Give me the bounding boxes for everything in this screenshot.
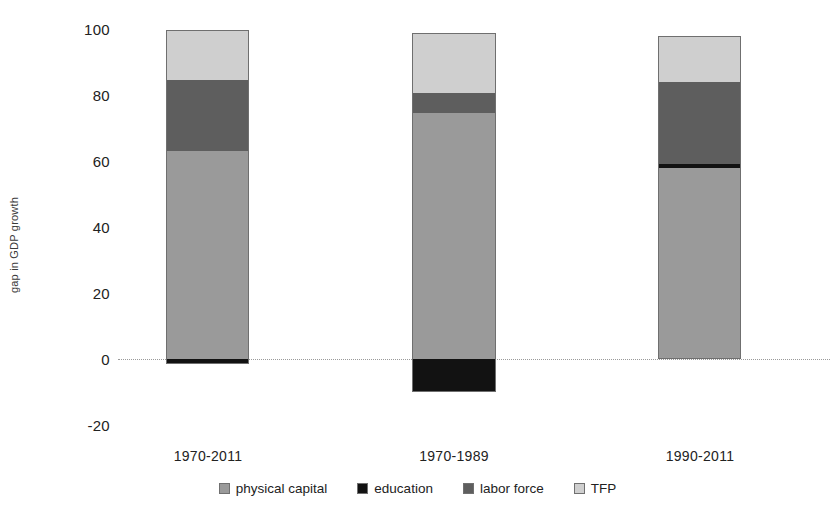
y-tick-label-20: 20 — [48, 285, 110, 302]
legend-item-physical-capital[interactable]: physical capital — [219, 481, 328, 496]
segment-tfp[interactable] — [166, 30, 249, 80]
chart-container: gap in GDP growth 100 80 60 40 20 0 -20 — [0, 0, 835, 518]
bar-group-1970-2011[interactable] — [166, 10, 249, 430]
legend-swatch-education — [357, 483, 368, 494]
bar-group-1970-1989[interactable] — [412, 10, 496, 430]
segment-physical-capital[interactable] — [412, 113, 496, 359]
segment-tfp[interactable] — [658, 36, 741, 82]
legend-label-physical-capital: physical capital — [236, 481, 328, 496]
bar-group-1990-2011[interactable] — [658, 10, 741, 430]
y-tick-label-neg20: -20 — [48, 417, 110, 434]
legend-label-tfp: TFP — [591, 481, 617, 496]
y-tick-label-40: 40 — [48, 219, 110, 236]
y-tick-label-80: 80 — [48, 87, 110, 104]
legend-swatch-physical-capital — [219, 483, 230, 494]
y-axis-tick-labels: 100 80 60 40 20 0 -20 — [0, 0, 110, 440]
x-tick-label-1990-2011: 1990-2011 — [638, 448, 762, 464]
legend-item-labor-force[interactable]: labor force — [463, 481, 544, 496]
y-tick-label-60: 60 — [48, 153, 110, 170]
segment-physical-capital[interactable] — [658, 168, 741, 359]
segment-tfp[interactable] — [412, 33, 496, 93]
legend-label-labor-force: labor force — [480, 481, 544, 496]
segment-physical-capital[interactable] — [166, 151, 249, 359]
segment-education[interactable] — [166, 359, 249, 364]
x-tick-label-1970-1989: 1970-1989 — [392, 448, 516, 464]
segment-labor-force[interactable] — [658, 82, 741, 164]
segment-education[interactable] — [412, 359, 496, 392]
legend-item-tfp[interactable]: TFP — [574, 481, 617, 496]
y-tick-label-0: 0 — [48, 351, 110, 368]
segment-labor-force[interactable] — [412, 93, 496, 113]
legend-swatch-tfp — [574, 483, 585, 494]
x-tick-label-1970-2011: 1970-2011 — [146, 448, 270, 464]
legend-swatch-labor-force — [463, 483, 474, 494]
legend-item-education[interactable]: education — [357, 481, 433, 496]
legend-label-education: education — [374, 481, 433, 496]
chart-legend: physical capital education labor force T… — [0, 481, 835, 496]
y-tick-label-100: 100 — [48, 21, 110, 38]
segment-labor-force[interactable] — [166, 80, 249, 151]
plot-area: 1970-2011 1970-1989 1990-2011 — [118, 10, 830, 430]
